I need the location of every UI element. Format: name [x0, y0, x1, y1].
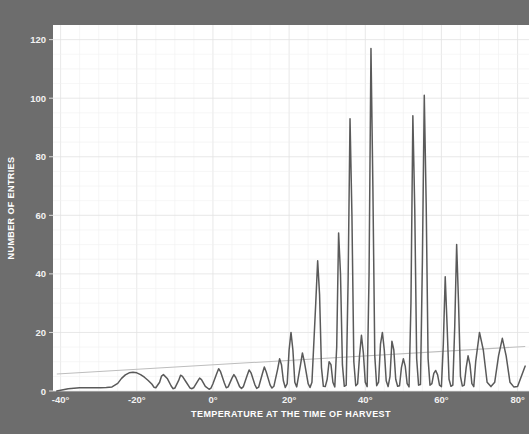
x-tick-label: 20°: [282, 394, 297, 405]
y-tick-label: 100: [30, 93, 46, 104]
x-tick-label: -20°: [128, 394, 146, 405]
y-tick-label: 60: [35, 210, 46, 221]
x-tick-label: -40°: [52, 394, 70, 405]
y-tick-label: 0: [41, 386, 46, 397]
y-tick-label: 80: [35, 151, 46, 162]
x-tick-label: 60°: [434, 394, 449, 405]
y-tick-label: 120: [30, 34, 46, 45]
y-tick-label: 20: [35, 327, 46, 338]
x-tick-label: 40°: [358, 394, 373, 405]
y-tick-label: 40: [35, 268, 46, 279]
chart-figure: -40°-20°0°20°40°60°80° 020406080100120 T…: [0, 0, 529, 434]
x-tick-label: 80°: [510, 394, 525, 405]
x-tick-label: 0°: [208, 394, 217, 405]
x-axis-label: TEMPERATURE AT THE TIME OF HARVEST: [191, 409, 391, 419]
y-axis-label: NUMBER OF ENTRIES: [6, 157, 16, 260]
